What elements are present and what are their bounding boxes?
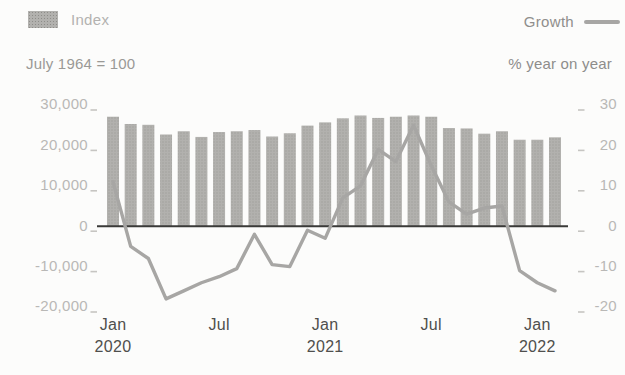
x-axis-month-label: Jan <box>100 316 127 333</box>
right-axis-tick-label: 10 <box>600 176 617 193</box>
index-bar <box>355 116 367 227</box>
right-axis-tick-label: 0 <box>608 217 617 234</box>
x-axis-month-label: Jul <box>208 316 229 333</box>
index-bar <box>390 117 402 226</box>
left-axis-tick-label: 0 <box>79 217 88 234</box>
right-axis-tick-label: 30 <box>600 95 617 112</box>
left-axis-ticks: 30,00020,00010,0000-10,000-20,000 <box>35 95 97 314</box>
index-bar <box>178 131 190 226</box>
left-axis-tick-label: -20,000 <box>35 297 88 314</box>
x-axis-year-label: 2021 <box>307 338 344 355</box>
right-axis-ticks: 3020100-10-20 <box>578 95 617 314</box>
index-bar <box>549 137 561 226</box>
x-axis-month-label: Jan <box>312 316 339 333</box>
index-bar <box>107 117 119 226</box>
x-axis-month-label: Jul <box>421 316 442 333</box>
index-bar <box>319 122 331 226</box>
left-axis-tick-label: 30,000 <box>40 95 88 112</box>
right-axis-tick-label: -20 <box>594 297 617 314</box>
right-axis-tick-label: 20 <box>600 136 617 153</box>
index-bar <box>372 118 384 226</box>
left-axis-tick-label: 10,000 <box>40 176 88 193</box>
x-axis-month-label: Jan <box>524 316 551 333</box>
right-axis-tick-label: -10 <box>594 257 617 274</box>
index-bar <box>284 133 296 226</box>
index-bar <box>478 134 490 227</box>
index-bars <box>107 116 561 227</box>
left-axis-tick-label: 20,000 <box>40 136 88 153</box>
index-bar <box>266 137 278 227</box>
x-axis-year-label: 2022 <box>519 338 556 355</box>
left-axis-tick-label: -10,000 <box>35 257 88 274</box>
index-bar <box>248 130 260 226</box>
index-bar <box>514 140 526 226</box>
index-bar <box>443 128 455 226</box>
x-axis-labels: Jan2020JulJan2021JulJan2022 <box>95 316 556 355</box>
index-bar <box>195 137 207 226</box>
index-bar <box>531 140 543 226</box>
index-bar <box>142 125 154 226</box>
chart-canvas: Index Growth July 1964 = 100 % year on y… <box>0 0 625 375</box>
x-axis-year-label: 2020 <box>95 338 132 355</box>
index-bar <box>160 134 172 226</box>
index-bar <box>125 124 137 226</box>
index-bar <box>231 131 243 226</box>
combo-chart: 30,00020,00010,0000-10,000-20,0003020100… <box>0 0 625 375</box>
index-bar <box>213 132 225 226</box>
index-bar <box>301 126 313 227</box>
